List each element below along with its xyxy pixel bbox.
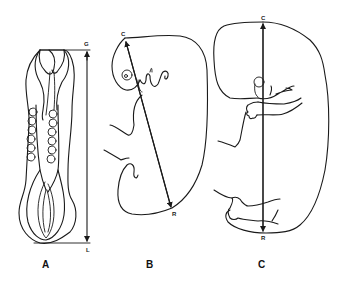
panel-c: C R C	[214, 15, 329, 270]
embryo-c-ventral-line	[218, 112, 246, 147]
measure-b-start-label: C	[121, 31, 126, 37]
embryo-c-forearm	[257, 103, 302, 115]
embryo-a-head-fold-right	[57, 50, 69, 110]
measure-c-end-label: R	[261, 235, 266, 241]
panel-c-label: C	[258, 259, 265, 270]
measure-c-start-label: C	[261, 15, 266, 21]
embryo-b-lower-limb	[104, 150, 129, 160]
embryo-b-eye-inner	[125, 75, 128, 78]
embryo-a-somites-right	[47, 110, 57, 163]
measure-a-start-label: G	[84, 41, 89, 47]
panel-b-label: B	[146, 259, 153, 270]
measure-b-arrow-line-end	[126, 42, 171, 207]
panel-a: G L A	[19, 41, 90, 270]
embryo-a-tail-mid	[43, 190, 51, 232]
embryo-a-neural-groove	[46, 72, 55, 115]
embryo-a-trunk-left	[36, 105, 46, 190]
embryo-b-head	[112, 38, 140, 90]
embryo-c-lower-body	[214, 190, 278, 224]
embryo-measurement-diagram: G L A C R B	[0, 0, 349, 283]
measure-b-end-label: R	[172, 211, 177, 217]
embryo-c-leg	[272, 210, 278, 221]
embryo-b-upper-limb	[110, 95, 142, 135]
embryo-c-foot	[232, 197, 280, 206]
embryo-c-hand	[247, 102, 259, 119]
panel-a-label: A	[42, 259, 49, 270]
embryo-a-tail-outer	[27, 170, 65, 240]
embryo-b-arches	[140, 71, 168, 86]
embryo-c-head	[214, 22, 263, 99]
measure-a-end-label: L	[86, 247, 90, 253]
panel-b: C R B	[104, 31, 207, 270]
